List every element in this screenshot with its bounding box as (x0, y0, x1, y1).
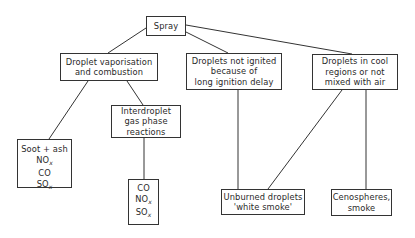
node-label: Cenospheres, (333, 192, 391, 203)
edge-spray-cool-regions (186, 25, 352, 54)
edge-vaporisation-interdroplet (127, 81, 143, 105)
edge-cool-regions-unburned (268, 90, 342, 189)
node-droplets-not-ignited: Droplets not ignited because of long ign… (186, 53, 282, 90)
node-label: 'white smoke' (234, 202, 292, 213)
node-label: mixed with air (325, 77, 386, 88)
node-label-sox: SOx (136, 207, 152, 221)
edge-spray-vaporisation (108, 28, 146, 53)
node-label: Droplets not ignited (192, 56, 277, 67)
node-label: CO (38, 168, 51, 179)
node-label: smoke (348, 203, 376, 214)
node-soot-ash: Soot + ash NOx CO SOx (17, 139, 72, 188)
node-label: long ignition delay (195, 77, 274, 88)
node-interdroplet-reactions: Interdroplet gas phase reactions (111, 105, 181, 138)
node-label: Spray (154, 21, 178, 32)
node-label: regions or not (325, 67, 384, 78)
node-label-nox: NOx (135, 194, 152, 208)
node-label: Droplets in cool (322, 56, 388, 67)
node-label: Droplet vaporisation (66, 57, 153, 68)
node-label: because of (211, 66, 257, 77)
node-label: and combustion (75, 67, 143, 78)
node-unburned-droplets: Unburned droplets 'white smoke' (221, 189, 305, 215)
edge-vaporisation-soot (49, 81, 88, 139)
node-label: reactions (126, 127, 165, 138)
node-droplets-cool-regions: Droplets in cool regions or not mixed wi… (312, 54, 398, 90)
node-label: Unburned droplets (224, 192, 303, 203)
node-droplet-vaporisation: Droplet vaporisation and combustion (60, 53, 158, 81)
edge-spray-not-ignited (186, 32, 228, 53)
node-label: gas phase (124, 116, 167, 127)
node-spray: Spray (146, 16, 186, 36)
node-label-nox: NOx (36, 155, 53, 169)
node-label-sox: SOx (37, 179, 53, 193)
node-gas-products: CO NOx SOx (128, 179, 159, 225)
node-label: Soot + ash (21, 144, 68, 155)
node-label: CO (137, 183, 150, 194)
node-cenospheres: Cenospheres, smoke (331, 189, 392, 216)
node-label: Interdroplet (121, 106, 171, 117)
